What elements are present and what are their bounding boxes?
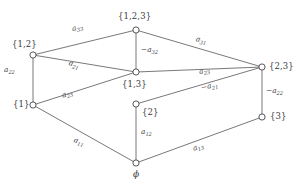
node-label-upper-right: {2,3} [269,62,294,71]
edge-label-neg-a32: −a32 [141,46,158,53]
edge-label-a33-sub: 33 [76,25,84,32]
node-label-top: {1,2,3} [118,12,151,21]
node-lower-mid [133,101,139,107]
edge-label-neg-a22: −a22 [266,87,283,94]
edge-label-a12: a12 [141,128,152,135]
edge-label-neg-a22-sub: 22 [277,90,283,96]
node-bottom [133,160,139,166]
edge-label-a23-top: a23 [198,66,210,75]
edge-label-a31-sub: 31 [199,39,207,46]
node-label-bottom: ϕ [133,170,139,179]
node-upper-left [30,52,36,58]
edge-label-a22-sub: 22 [8,69,14,75]
edge-label-a31: a31 [195,35,207,45]
node-lower-right [259,114,265,120]
node-lower-left [30,102,36,108]
edge-label-a23-top-sub: 23 [203,69,210,76]
edge-lowerleft-bottom [33,105,136,163]
edge-label-a22: a22 [4,66,15,73]
node-label-upper-left: {1,2} [12,40,37,49]
edge-label-neg-a21-sub: 21 [211,83,218,90]
edge-label-a13: a13 [192,142,205,153]
edge-label-a33: a33 [71,23,83,33]
edge-label-neg-a32-base: a [147,45,151,54]
node-upper-right [259,64,265,70]
edge-upperleft-center [33,55,136,72]
edge-label-neg-a22-base: a [272,86,276,95]
edge-label-neg-a21: −a21 [200,81,218,92]
node-center [133,69,139,75]
edge-label-a23-bottom: a23 [61,89,74,100]
edge-top-upperleft [33,30,136,55]
lattice-svg [0,0,296,187]
lattice-diagram: {1,2,3} {1,2} {2,3} {1,3} {1} {2} {3} ϕ … [0,0,296,187]
edge-label-neg-a32-sub: 32 [152,49,158,55]
edge-bottom-lowerright [136,117,262,163]
node-label-lower-right: {3} [270,112,287,121]
edge-label-a12-sub: 12 [145,131,151,137]
node-label-center: {1,3} [122,80,147,89]
edge-lowerleft-center [33,72,136,105]
node-top [133,27,139,33]
node-label-lower-left: {1} [13,100,30,109]
node-label-lower-mid: {2} [142,108,159,117]
